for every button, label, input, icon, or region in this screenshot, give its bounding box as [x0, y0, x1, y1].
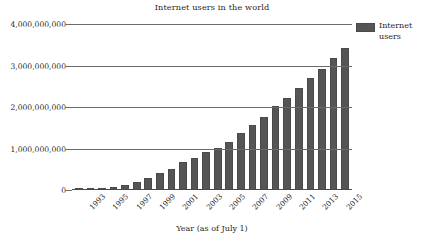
y-axis-tick-label: 1,000,000,000 [10, 144, 66, 153]
x-axis-tick-label: 1993 [87, 192, 107, 212]
bar [307, 78, 315, 190]
bar [260, 117, 268, 190]
bar [341, 48, 349, 190]
x-axis-tick-label: 2013 [321, 192, 341, 212]
bar [191, 158, 199, 190]
gridline [72, 66, 352, 67]
y-axis-tick-mark [66, 66, 72, 67]
plot-area [72, 24, 352, 190]
y-axis-tick-mark [66, 149, 72, 150]
gridline [72, 149, 352, 150]
y-axis-tick-label: 2,000,000,000 [10, 103, 66, 112]
bar [237, 133, 245, 190]
chart-title: Internet users in the world [72, 2, 352, 12]
bar [179, 162, 187, 190]
legend-swatch-internet-users [356, 23, 375, 32]
y-axis-tick-mark [66, 24, 72, 25]
x-axis-tick-label: 1995 [111, 192, 131, 212]
x-axis-tick-label: 2015 [344, 192, 364, 212]
chart-legend: Internet users [356, 21, 423, 42]
x-axis-tick-label: 2007 [251, 192, 271, 212]
legend-label-internet-users: Internet users [379, 21, 423, 42]
y-axis-tick-label: 3,000,000,000 [10, 61, 66, 70]
bar [168, 169, 176, 190]
x-axis-tick-label: 2009 [274, 192, 294, 212]
y-axis-tick-label: 4,000,000,000 [10, 20, 66, 29]
bar [249, 125, 257, 190]
bar [214, 148, 222, 190]
x-axis-title: Year (as of July 1) [72, 224, 352, 233]
x-axis-tick-label: 1997 [134, 192, 154, 212]
gridline [72, 24, 352, 25]
x-axis-line [72, 189, 352, 190]
y-axis-tick-mark [66, 190, 72, 191]
bar [283, 98, 291, 190]
bar [295, 88, 303, 190]
bar [318, 69, 326, 190]
bar [202, 152, 210, 190]
x-axis-tick-label: 2011 [297, 192, 317, 212]
chart-figure: Internet users in the world 199319951997… [0, 0, 424, 243]
x-axis-tick-label: 2005 [227, 192, 247, 212]
x-axis-tick-label: 2003 [204, 192, 224, 212]
x-axis-tick-labels: 1993199519971999200120032005200720092011… [72, 192, 352, 220]
y-axis-tick-mark [66, 107, 72, 108]
bar [330, 58, 338, 190]
x-axis-tick-label: 2001 [181, 192, 201, 212]
x-axis-tick-label: 1999 [157, 192, 177, 212]
bar [156, 173, 164, 190]
gridline [72, 107, 352, 108]
